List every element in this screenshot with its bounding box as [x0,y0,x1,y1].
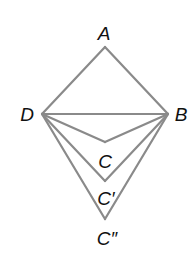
label-d: D [20,104,34,125]
segment-dc-prime [42,114,105,181]
segment-ad [42,47,105,114]
label-a: A [97,23,111,44]
label-c: C [98,151,112,172]
segment-c-prime-b [105,114,168,181]
segment-dc-double-prime [42,114,105,219]
label-c-prime: C′ [97,188,116,209]
label-c-double-prime: C″ [97,228,119,249]
segment-ab [105,47,168,114]
geometry-diagram: A D B C C′ C″ [0,0,195,265]
label-b: B [175,104,188,125]
